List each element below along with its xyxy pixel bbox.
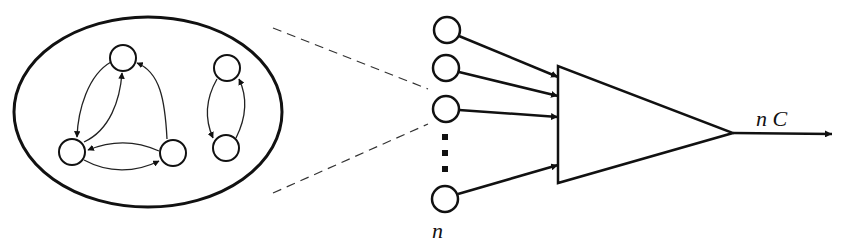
cluster-ellipse xyxy=(14,17,282,207)
input-nodes xyxy=(432,17,460,212)
input-count-label: n xyxy=(432,218,443,243)
input-edge-1 xyxy=(459,36,558,77)
cluster-node xyxy=(213,135,239,161)
edge-b-to-a xyxy=(84,73,122,142)
output-label: n C xyxy=(756,106,788,131)
edge-d-to-e xyxy=(207,79,217,138)
input-edge-3 xyxy=(459,110,558,117)
diagram-canvas: n n C xyxy=(0,0,845,249)
cluster-node xyxy=(160,140,186,166)
input-node xyxy=(434,17,460,43)
input-node xyxy=(432,186,458,212)
edge-b-to-c xyxy=(84,160,159,170)
edge-c-to-b xyxy=(88,143,159,151)
input-node xyxy=(433,55,459,81)
network-cluster xyxy=(14,17,282,207)
edge-c-to-a xyxy=(137,63,167,139)
zoom-line-bottom xyxy=(273,124,428,193)
zoom-line-top xyxy=(273,28,428,89)
summation-triangle xyxy=(558,66,733,183)
cluster-node xyxy=(214,55,240,81)
cluster-node xyxy=(110,45,136,71)
input-edges xyxy=(458,36,558,194)
input-edge-2 xyxy=(459,72,558,96)
input-edge-4 xyxy=(458,165,558,194)
edge-e-to-d xyxy=(236,79,245,138)
output-arrow xyxy=(733,133,832,134)
cluster-node xyxy=(59,139,85,165)
vertical-ellipsis-icon xyxy=(442,134,448,172)
edge-a-to-b xyxy=(77,62,111,137)
input-node xyxy=(433,96,459,122)
